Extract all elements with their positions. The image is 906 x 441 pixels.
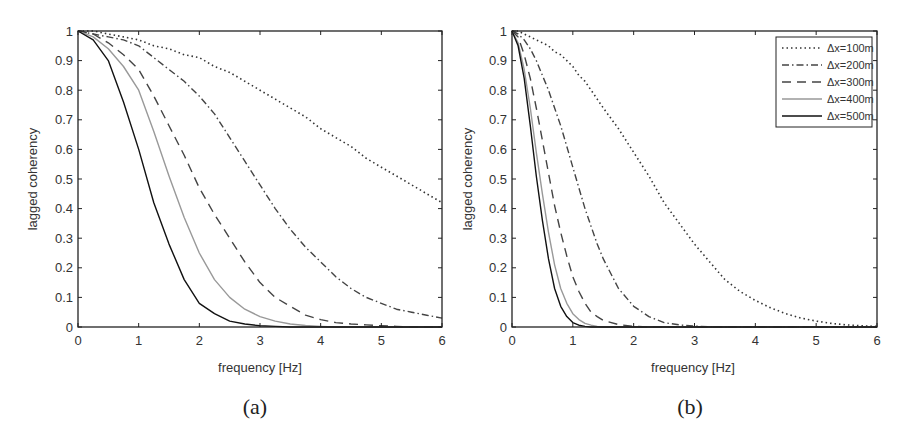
- x-tick-label: 4: [317, 333, 324, 348]
- y-tick-label: 0: [66, 320, 73, 335]
- x-tick-label: 6: [438, 333, 445, 348]
- series-layer: [78, 31, 442, 327]
- y-axis-label: lagged coherency: [460, 127, 475, 230]
- panel-label-a: (a): [243, 394, 267, 419]
- x-axis-label: frequency [Hz]: [651, 360, 735, 375]
- x-tick-label: 6: [873, 333, 880, 348]
- x-tick-label: 2: [196, 333, 203, 348]
- y-tick-label: 0.3: [55, 231, 73, 246]
- legend-label: Δx=500m: [827, 110, 874, 122]
- legend-label: Δx=400m: [827, 93, 874, 105]
- x-tick-label: 0: [508, 333, 515, 348]
- y-tick-label: 0.8: [489, 83, 507, 98]
- y-tick-label: 0.5: [55, 172, 73, 187]
- y-tick-label: 0.9: [489, 53, 507, 68]
- y-tick-label: 0.2: [55, 260, 73, 275]
- y-tick-label: 0.6: [55, 142, 73, 157]
- x-tick-label: 1: [569, 333, 576, 348]
- figure: 012345600.10.20.30.40.50.60.70.80.91 fre…: [0, 0, 906, 441]
- y-tick-label: 0.1: [55, 290, 73, 305]
- x-tick-label: 0: [74, 333, 81, 348]
- x-axis-label: frequency [Hz]: [218, 360, 302, 375]
- x-tick-label: 5: [813, 333, 820, 348]
- y-tick-label: 0.8: [55, 83, 73, 98]
- legend-label: Δx=300m: [827, 76, 874, 88]
- x-tick-label: 5: [378, 333, 385, 348]
- y-tick-label: 0.2: [489, 260, 507, 275]
- x-tick-label: 3: [256, 333, 263, 348]
- y-tick-label: 0.3: [489, 231, 507, 246]
- legend-label: Δx=100m: [827, 42, 874, 54]
- series-line-3: [78, 31, 442, 327]
- y-tick-label: 0.4: [489, 201, 507, 216]
- x-tick-label: 3: [691, 333, 698, 348]
- series-line-1: [78, 31, 442, 203]
- panel-label-b: (b): [677, 394, 703, 419]
- y-tick-label: 0.5: [489, 172, 507, 187]
- y-axis-label: lagged coherency: [25, 127, 40, 230]
- axis-ticks: 012345600.10.20.30.40.50.60.70.80.91: [55, 24, 446, 349]
- y-tick-label: 0.9: [55, 53, 73, 68]
- chart-panel-a: 012345600.10.20.30.40.50.60.70.80.91 fre…: [25, 24, 446, 420]
- y-tick-label: 0.4: [55, 201, 73, 216]
- y-tick-label: 1: [500, 24, 507, 39]
- y-tick-label: 0.1: [489, 290, 507, 305]
- x-tick-label: 4: [752, 333, 759, 348]
- y-tick-label: 1: [66, 24, 73, 39]
- chart-panel-b: 012345600.10.20.30.40.50.60.70.80.91 fre…: [460, 24, 881, 420]
- y-tick-label: 0: [500, 320, 507, 335]
- x-tick-label: 2: [630, 333, 637, 348]
- series-line-2: [78, 31, 442, 318]
- y-tick-label: 0.7: [489, 112, 507, 127]
- legend: Δx=100mΔx=200mΔx=300mΔx=400mΔx=500m: [776, 37, 874, 127]
- y-tick-label: 0.7: [55, 112, 73, 127]
- x-tick-label: 1: [135, 333, 142, 348]
- legend-label: Δx=200m: [827, 59, 874, 71]
- y-tick-label: 0.6: [489, 142, 507, 157]
